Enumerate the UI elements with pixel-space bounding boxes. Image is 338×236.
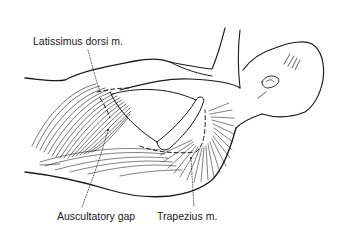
scapula-upper — [112, 89, 196, 100]
neck-contour — [236, 114, 262, 128]
anatomical-figure: Latissimus dorsi m. Auscultatory gap Tra… — [0, 0, 338, 236]
forearm-outline — [170, 62, 212, 76]
torso-right-contour — [25, 128, 236, 197]
trapezius-label: Trapezius m. — [157, 211, 217, 222]
back-contour-top — [25, 59, 170, 81]
trapezius-point — [190, 157, 192, 159]
arm-crease — [238, 30, 240, 88]
scapula-spine — [157, 97, 204, 150]
leader-trapezius — [191, 158, 194, 207]
auscultatory-gap-label: Auscultatory gap — [57, 211, 135, 222]
arm-outline-upper — [170, 28, 225, 69]
lower-back-fibers — [40, 149, 182, 177]
head-outline — [243, 42, 324, 117]
ear-inner — [266, 80, 274, 82]
auscultatory-point — [107, 129, 109, 131]
arm-outline-lower — [120, 79, 240, 90]
face-line — [258, 92, 266, 98]
latissimus-fibers — [32, 84, 131, 158]
latissimus-label: Latissimus dorsi m. — [33, 36, 123, 47]
ear-outline — [262, 76, 279, 88]
hair-strokes — [284, 54, 300, 70]
